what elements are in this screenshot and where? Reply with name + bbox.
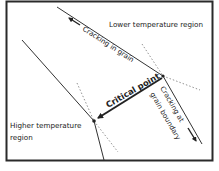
lower-temperature-region-label: Lower temperature region — [109, 20, 203, 29]
upper-junction-point — [161, 74, 164, 77]
critical-point-dot — [92, 119, 96, 123]
higher-temperature-region-label: Higher temperature — [10, 121, 82, 130]
critical-point-diagram: Lower temperature region Cracking in gra… — [0, 0, 219, 171]
higher-temperature-region-label-line2: region — [10, 133, 33, 142]
